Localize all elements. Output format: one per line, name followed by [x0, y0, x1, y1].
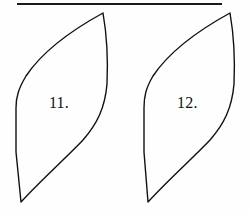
figure-12-label: 12.	[177, 95, 198, 111]
figure-11-label: 11.	[49, 95, 69, 111]
worksheet-page: 11. 12.	[0, 0, 251, 214]
figures-canvas	[0, 0, 251, 214]
